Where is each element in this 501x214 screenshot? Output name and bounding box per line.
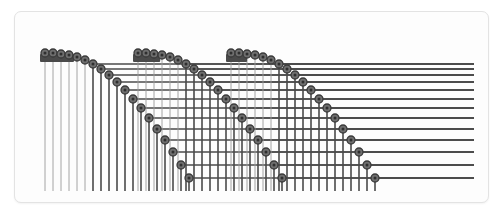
node-core-1-13 — [241, 117, 244, 120]
node-core-0-5 — [84, 59, 87, 62]
node-core-0-8 — [108, 74, 111, 77]
node-core-2-12 — [326, 107, 329, 110]
node-core-0-4 — [76, 56, 79, 59]
node-core-1-10 — [217, 89, 220, 92]
node-core-2-3 — [254, 54, 257, 57]
node-core-1-0 — [137, 52, 140, 55]
node-core-1-14 — [249, 128, 252, 131]
node-core-2-14 — [342, 128, 345, 131]
node-core-1-9 — [209, 81, 212, 84]
node-core-0-3 — [68, 54, 71, 57]
node-core-2-0 — [230, 52, 233, 55]
node-core-2-18 — [374, 177, 377, 180]
node-core-0-18 — [188, 177, 191, 180]
node-core-0-16 — [172, 151, 175, 154]
node-core-0-1 — [52, 52, 55, 55]
node-core-1-11 — [225, 98, 228, 101]
node-core-1-16 — [265, 151, 268, 154]
node-core-1-5 — [177, 59, 180, 62]
node-core-0-0 — [44, 52, 47, 55]
node-core-0-11 — [132, 98, 135, 101]
node-core-2-17 — [366, 164, 369, 167]
node-core-2-13 — [334, 117, 337, 120]
node-core-2-5 — [270, 59, 273, 62]
node-core-2-1 — [238, 52, 241, 55]
node-core-2-4 — [262, 56, 265, 59]
screenshot-root — [0, 0, 501, 214]
node-core-2-2 — [246, 53, 249, 56]
node-core-0-7 — [100, 68, 103, 71]
node-core-1-3 — [161, 54, 164, 57]
node-core-1-6 — [185, 63, 188, 66]
node-core-1-1 — [145, 52, 148, 55]
node-core-1-15 — [257, 139, 260, 142]
node-core-0-2 — [60, 53, 63, 56]
node-core-0-14 — [156, 128, 159, 131]
node-core-1-2 — [153, 53, 156, 56]
node-core-2-11 — [318, 98, 321, 101]
node-core-1-18 — [281, 177, 284, 180]
node-core-2-16 — [358, 151, 361, 154]
node-core-2-7 — [286, 68, 289, 71]
node-core-2-8 — [294, 74, 297, 77]
node-core-2-9 — [302, 81, 305, 84]
node-core-2-15 — [350, 139, 353, 142]
node-core-1-4 — [169, 56, 172, 59]
arc-lattice-diagram[interactable] — [15, 12, 488, 202]
node-core-0-6 — [92, 63, 95, 66]
node-core-2-6 — [278, 63, 281, 66]
node-core-1-17 — [273, 164, 276, 167]
node-core-1-8 — [201, 74, 204, 77]
node-core-1-7 — [193, 68, 196, 71]
node-core-0-15 — [164, 139, 167, 142]
node-core-1-12 — [233, 107, 236, 110]
node-core-2-10 — [310, 89, 313, 92]
node-core-0-9 — [116, 81, 119, 84]
diagram-card — [14, 11, 489, 203]
node-core-0-12 — [140, 107, 143, 110]
node-core-0-13 — [148, 117, 151, 120]
node-core-0-17 — [180, 164, 183, 167]
node-core-0-10 — [124, 89, 127, 92]
